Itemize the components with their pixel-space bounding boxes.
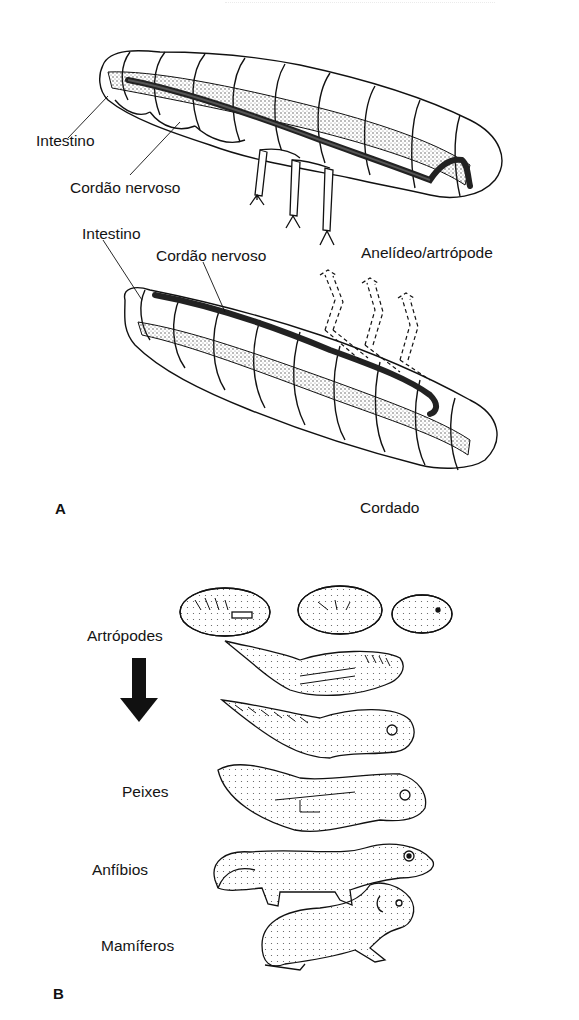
label-nerve-cord-lower: Cordão nervoso — [156, 248, 266, 264]
fish-embryo — [218, 765, 426, 832]
label-arthropods: Artrópodes — [87, 628, 163, 644]
label-nerve-cord-upper: Cordão nervoso — [70, 180, 180, 196]
embryo-stage-3 — [222, 700, 414, 758]
diagram-drawings — [0, 0, 579, 1020]
label-chordate: Cordado — [360, 500, 419, 516]
label-intestine-lower: Intestino — [82, 226, 141, 242]
embryo-stage-2 — [225, 641, 403, 695]
panel-label-b: B — [53, 985, 64, 1002]
leader-intestine-lower — [103, 240, 142, 300]
leader-nerve-cord-upper — [130, 122, 180, 175]
label-fish: Peixes — [122, 784, 169, 800]
label-amphibians: Anfíbios — [92, 862, 148, 878]
label-intestine-upper: Intestino — [36, 133, 95, 149]
annelid-arthropod-body — [100, 51, 502, 198]
label-mammals: Mamíferos — [101, 938, 174, 954]
arthropod-embryos — [180, 586, 452, 636]
panel-label-a: A — [55, 500, 66, 517]
label-annelid-arthropod: Anelídeo/artrópode — [361, 245, 493, 261]
down-arrow-icon — [120, 658, 158, 722]
chordate-body — [125, 288, 497, 470]
